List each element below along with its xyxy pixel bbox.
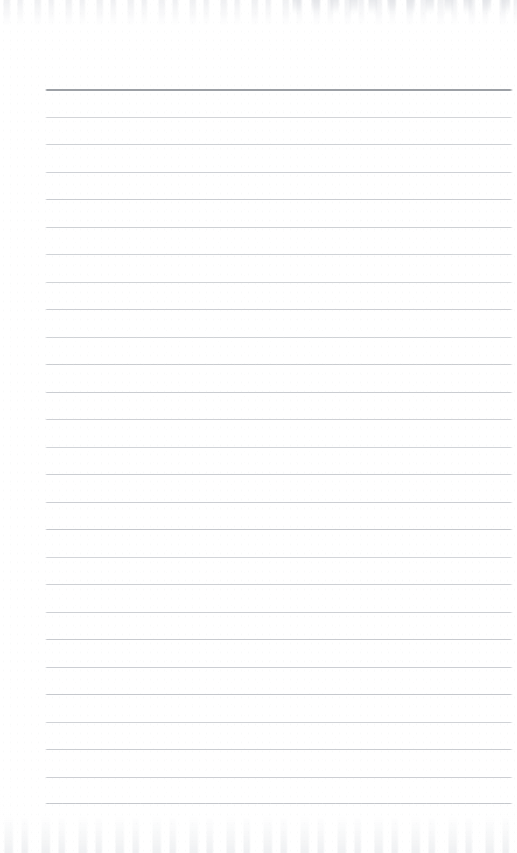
rule-line [45, 803, 513, 804]
scanned-page [0, 0, 517, 853]
page-text-content[interactable] [45, 89, 513, 803]
